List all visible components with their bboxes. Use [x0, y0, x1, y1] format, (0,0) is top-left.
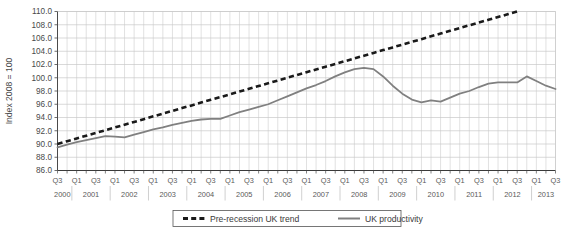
x-year-label: 2008 — [351, 190, 367, 199]
x-year-label: 2000 — [54, 190, 70, 199]
y-tick-label: 106.0 — [32, 34, 53, 43]
x-quarter-label: Q1 — [225, 176, 235, 185]
legend-label: UK productivity — [365, 214, 423, 224]
y-tick-label: 102.0 — [32, 60, 53, 69]
x-quarter-label: Q1 — [340, 176, 350, 185]
x-quarter-label: Q3 — [167, 176, 177, 185]
y-tick-label: 96.0 — [36, 100, 52, 109]
x-year-label: 2009 — [389, 190, 405, 199]
x-year-label: 2012 — [504, 190, 520, 199]
x-quarter-label: Q3 — [91, 176, 101, 185]
x-year-label: 2007 — [313, 190, 329, 199]
x-quarter-label: Q1 — [187, 176, 197, 185]
chart-canvas: 110.0108.0106.0104.0102.0100.098.096.094… — [0, 0, 563, 233]
x-quarter-label: Q3 — [551, 176, 561, 185]
x-quarter-label: Q3 — [206, 176, 216, 185]
x-quarter-label: Q1 — [531, 176, 541, 185]
y-axis-title: Index 2008 = 100 — [4, 57, 14, 124]
x-quarter-label: Q3 — [474, 176, 484, 185]
x-year-label: 2011 — [466, 190, 482, 199]
x-year-label: 2006 — [274, 190, 290, 199]
y-tick-label: 110.0 — [32, 7, 52, 16]
x-quarter-label: Q1 — [72, 176, 82, 185]
x-year-label: 2003 — [159, 190, 175, 199]
x-quarter-label: Q1 — [148, 176, 158, 185]
x-quarter-label: Q1 — [302, 176, 312, 185]
y-tick-label: 88.0 — [36, 153, 52, 162]
y-tick-label: 98.0 — [36, 87, 52, 96]
x-quarter-label: Q1 — [416, 176, 426, 185]
y-tick-label: 90.0 — [36, 140, 52, 149]
x-quarter-label: Q3 — [512, 176, 522, 185]
x-year-label: 2004 — [198, 190, 214, 199]
x-quarter-label: Q1 — [493, 176, 503, 185]
x-quarter-label: Q1 — [378, 176, 388, 185]
x-year-label: 2001 — [83, 190, 99, 199]
x-quarter-label: Q3 — [53, 176, 63, 185]
y-axis-label: Index 2008 = 100 — [4, 57, 14, 124]
x-year-label: 2002 — [121, 190, 137, 199]
y-tick-label: 94.0 — [36, 113, 52, 122]
x-quarter-label: Q1 — [110, 176, 120, 185]
x-quarter-label: Q3 — [129, 176, 139, 185]
y-tick-label: 86.0 — [36, 166, 52, 175]
x-year-label: 2013 — [538, 190, 554, 199]
x-quarter-label: Q3 — [321, 176, 331, 185]
productivity-chart: 110.0108.0106.0104.0102.0100.098.096.094… — [0, 0, 563, 233]
x-quarter-label: Q3 — [397, 176, 407, 185]
legend-label: Pre-recession UK trend — [210, 214, 300, 224]
x-quarter-label: Q3 — [359, 176, 369, 185]
x-year-label: 2005 — [236, 190, 252, 199]
y-tick-label: 92.0 — [36, 127, 52, 136]
x-quarter-label: Q3 — [282, 176, 292, 185]
x-quarter-label: Q1 — [263, 176, 273, 185]
x-quarter-label: Q3 — [436, 176, 446, 185]
y-tick-label: 104.0 — [32, 47, 53, 56]
x-quarter-label: Q1 — [455, 176, 465, 185]
chart-legend[interactable]: Pre-recession UK trendUK productivity — [173, 211, 423, 227]
x-year-label: 2010 — [428, 190, 444, 199]
y-tick-label: 100.0 — [32, 74, 53, 83]
y-tick-label: 108.0 — [32, 21, 53, 30]
x-quarter-label: Q3 — [244, 176, 254, 185]
